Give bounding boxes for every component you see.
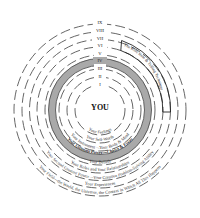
- center-label: YOU: [91, 103, 109, 112]
- ring-label-viii: Your Experiences: [84, 180, 116, 187]
- ring-label-ii: Your Self-Worth: [86, 133, 116, 142]
- ring-numeral: VIII: [96, 28, 104, 33]
- ring-numeral: III: [98, 66, 103, 71]
- ring-numeral: VI: [98, 43, 103, 48]
- ring-numeral: II: [98, 74, 102, 79]
- concentric-rings-diagram: I II III IV V VI VII VIII IX YOU Your Fe…: [0, 0, 200, 218]
- ring-numeral: VII: [97, 36, 104, 41]
- ring-numeral: IX: [98, 20, 104, 25]
- ring-numeral: IV: [98, 58, 104, 63]
